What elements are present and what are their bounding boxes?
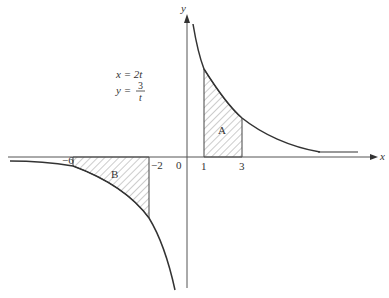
- curve-left-branch: [10, 161, 175, 290]
- y-axis-arrow-icon: [184, 14, 190, 23]
- region-b-label: B: [111, 168, 118, 180]
- tick-3: 3: [239, 160, 245, 172]
- diagram-canvas: y x 0 −6 −2 1 3 A B x = 2t y = 3 t: [0, 0, 389, 298]
- equation-y-denominator: t: [139, 92, 142, 103]
- x-axis-label: x: [379, 150, 385, 162]
- x-axis-arrow-icon: [370, 154, 378, 160]
- tick-neg6: −6: [62, 154, 74, 166]
- tick-1: 1: [201, 160, 207, 172]
- equation-y-lhs: y =: [115, 84, 131, 96]
- tick-neg2: −2: [151, 159, 163, 171]
- y-axis-label: y: [180, 2, 186, 14]
- origin-label: 0: [176, 159, 182, 171]
- region-b: [73, 157, 149, 218]
- equation-x: x = 2t: [115, 68, 143, 80]
- region-a-label: A: [218, 124, 226, 136]
- equation-y-numerator: 3: [138, 80, 143, 91]
